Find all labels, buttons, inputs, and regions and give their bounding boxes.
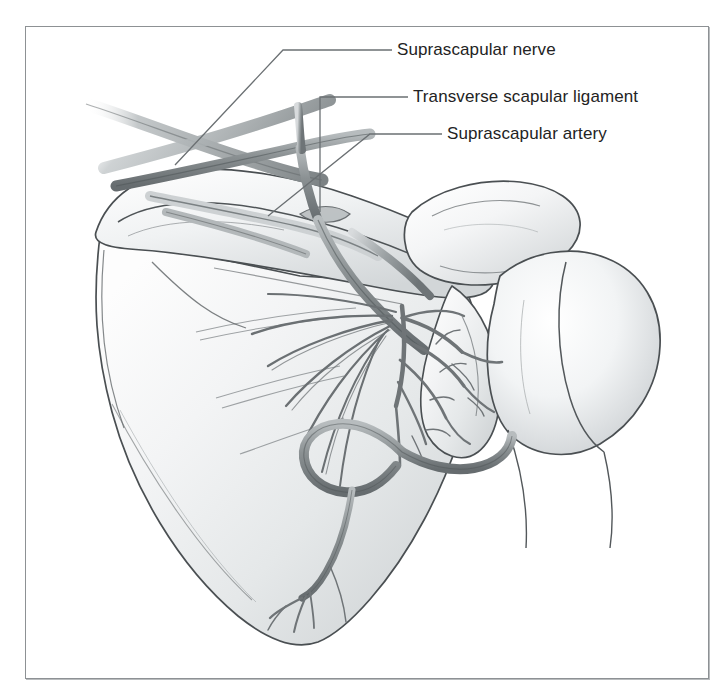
illustration-stage: Suprascapular nerve Transverse scapular … <box>0 0 722 694</box>
humeral-head <box>487 251 660 548</box>
scapular-body <box>96 236 477 645</box>
label-suprascapular-artery: Suprascapular artery <box>447 125 607 142</box>
label-suprascapular-nerve: Suprascapular nerve <box>397 41 556 58</box>
label-transverse-scapular-ligament: Transverse scapular ligament <box>413 88 638 105</box>
